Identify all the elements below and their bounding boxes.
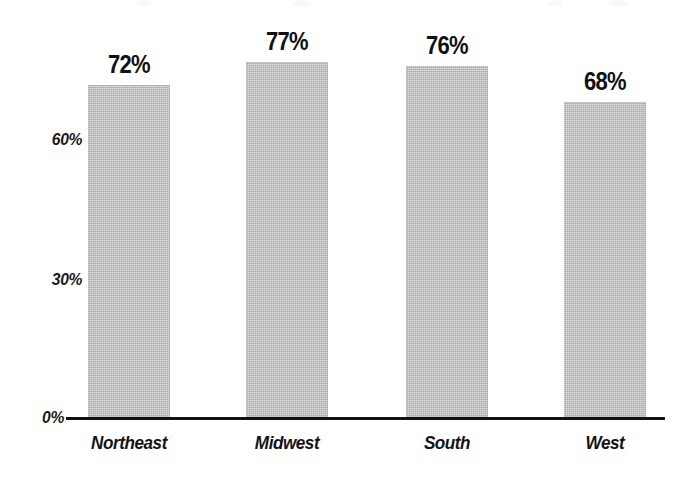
bar-value-label-midwest: 77%: [251, 27, 323, 56]
y-axis-tick-label-30: 30%: [7, 270, 82, 290]
x-axis-line: [66, 417, 665, 420]
bar-value-label-west: 68%: [569, 67, 641, 96]
bar-south[interactable]: [406, 66, 488, 417]
plot-area: 60% 30% 0% 72% 77% 76% 68% Northeast Mid…: [0, 0, 680, 479]
x-axis-category-label-south: South: [394, 432, 500, 454]
x-axis-category-label-northeast: Northeast: [76, 432, 182, 454]
y-axis-tick-label-0: 0%: [5, 408, 64, 428]
x-axis-category-label-west: West: [552, 432, 658, 454]
bar-value-label-south: 76%: [411, 31, 483, 60]
bar-midwest[interactable]: [246, 62, 328, 417]
x-axis-category-label-midwest: Midwest: [234, 432, 340, 454]
y-axis-tick-label-60: 60%: [7, 130, 82, 150]
bar-northeast[interactable]: [88, 85, 170, 417]
bar-west[interactable]: [564, 102, 646, 417]
bar-value-label-northeast: 72%: [93, 50, 165, 79]
bar-chart-figure: 60% 30% 0% 72% 77% 76% 68% Northeast Mid…: [0, 0, 680, 479]
